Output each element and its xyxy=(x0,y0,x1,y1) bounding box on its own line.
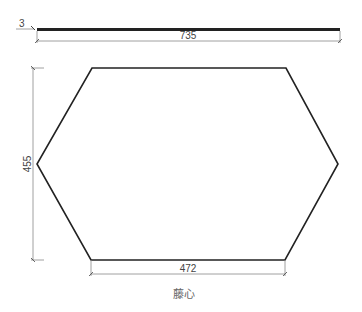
technical-drawing: 3 735 455 472 藤心 xyxy=(0,0,362,312)
hexagon-outline xyxy=(37,68,338,260)
top-view: 455 472 xyxy=(22,66,338,276)
side-view: 3 735 xyxy=(16,18,342,43)
width-label: 472 xyxy=(180,263,197,274)
length-label: 735 xyxy=(180,30,197,41)
height-label: 455 xyxy=(22,155,33,172)
thickness-label: 3 xyxy=(19,18,25,29)
caption: 藤心 xyxy=(173,288,195,301)
